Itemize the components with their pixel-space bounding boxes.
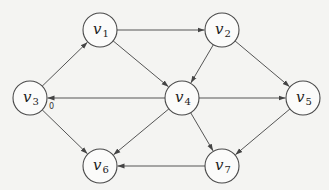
edge-v3-v6 (42, 110, 87, 154)
edge-arrow (113, 109, 168, 155)
node-v3: v3 (13, 81, 47, 115)
edge-arrow (42, 110, 87, 154)
node-v7: v7 (205, 149, 239, 183)
edge-v4-v3: 0 (48, 98, 166, 111)
edge-v2-v4 (191, 45, 214, 83)
node-v1: v1 (83, 13, 117, 47)
node-v6: v6 (83, 149, 117, 183)
edge-v3-v1 (42, 42, 87, 86)
edge-arrow (113, 41, 168, 87)
edge-arrow (235, 41, 290, 87)
edge-v2-v5 (235, 41, 290, 87)
edge-arrow (42, 42, 87, 86)
edge-v4-v7 (191, 113, 214, 151)
edge-v1-v4 (113, 41, 168, 87)
edge-arrow (191, 45, 214, 83)
node-v4: v4 (165, 81, 199, 115)
directed-graph: 0 v1v2v3v4v5v6v7 (0, 0, 329, 190)
edge-v5-v7 (235, 109, 290, 155)
edge-label: 0 (49, 102, 54, 111)
node-v2: v2 (205, 13, 239, 47)
node-v5: v5 (286, 81, 320, 115)
edge-arrow (191, 113, 214, 151)
edge-v4-v6 (113, 109, 168, 155)
edge-arrow (235, 109, 290, 155)
